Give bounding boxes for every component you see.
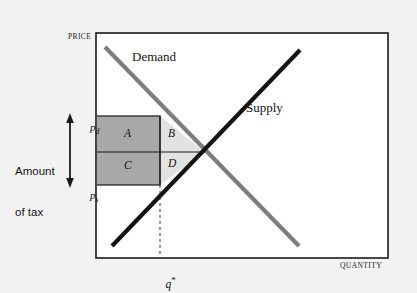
y-axis-label: PRICE — [68, 33, 91, 41]
qstar-label: q* — [154, 262, 176, 293]
supply-curve-label: Supply — [246, 101, 283, 116]
supply-demand-diagram-svg — [0, 0, 417, 293]
amount-of-tax-line2: of tax — [15, 206, 55, 220]
price-suppliers-label: ps — [79, 177, 98, 217]
amount-of-tax-label: Amount of tax — [15, 138, 55, 247]
price-demanders-label: pd — [79, 109, 99, 149]
amount-of-tax-line1: Amount — [15, 165, 55, 179]
demand-curve-label: Demand — [132, 50, 176, 65]
qstar-superscript: * — [171, 275, 176, 285]
region-b-label: B — [168, 127, 175, 140]
x-axis-label: QUANTITY — [340, 262, 382, 270]
region-c-label: C — [124, 159, 132, 172]
price-demanders-subscript: d — [96, 128, 100, 137]
price-suppliers-subscript: s — [96, 196, 99, 205]
region-d-label: D — [168, 157, 176, 170]
region-a-label: A — [124, 127, 131, 140]
tax-incidence-figure: PRICE QUANTITY Demand Supply pd ps Amoun… — [0, 0, 417, 293]
